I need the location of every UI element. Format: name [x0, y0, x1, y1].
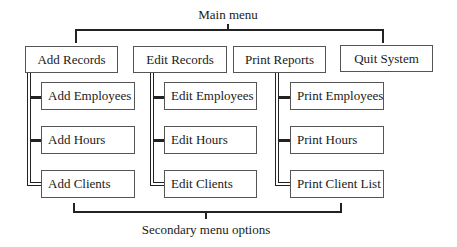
submenu-add-hours[interactable]: Add Hours	[41, 126, 135, 154]
submenu-edit-employees[interactable]: Edit Employees	[164, 82, 257, 110]
add-trunk-b	[30, 73, 31, 182]
print-corner-b	[278, 182, 290, 183]
menu-edit-records[interactable]: Edit Records	[133, 46, 227, 73]
submenu-edit-clients[interactable]: Edit Clients	[164, 170, 257, 198]
print-stub-1	[278, 96, 290, 99]
bottom-bracket-horizontal	[73, 211, 342, 213]
edit-stub-2	[153, 139, 164, 142]
top-bracket-left	[75, 29, 77, 43]
submenu-print-hours[interactable]: Print Hours	[290, 126, 384, 154]
print-trunk-b	[278, 73, 279, 182]
print-stub-2	[278, 139, 290, 142]
print-trunk-a	[275, 73, 276, 185]
add-stub-2	[30, 139, 41, 142]
submenu-add-clients[interactable]: Add Clients	[41, 170, 135, 198]
add-corner-b	[30, 182, 41, 183]
secondary-menu-label: Secondary menu options	[142, 222, 271, 238]
bottom-bracket-right	[340, 203, 342, 212]
submenu-print-client-list[interactable]: Print Client List	[290, 170, 384, 198]
bottom-bracket-left	[73, 203, 75, 212]
edit-corner-a	[150, 185, 164, 186]
edit-trunk-b	[153, 73, 154, 182]
menu-quit-system[interactable]: Quit System	[340, 45, 433, 72]
top-bracket-horizontal	[75, 29, 384, 31]
add-stub-1	[30, 96, 41, 99]
add-corner-a	[27, 185, 41, 186]
edit-trunk-a	[150, 73, 151, 185]
main-menu-label: Main menu	[198, 7, 258, 23]
edit-stub-1	[153, 96, 164, 99]
edit-corner-b	[153, 182, 164, 183]
submenu-print-employees[interactable]: Print Employees	[290, 82, 384, 110]
submenu-edit-hours[interactable]: Edit Hours	[164, 126, 257, 154]
print-corner-a	[275, 185, 290, 186]
top-bracket-tick	[227, 24, 229, 30]
top-bracket-right	[382, 29, 384, 43]
menu-add-records[interactable]: Add Records	[25, 46, 118, 73]
submenu-add-employees[interactable]: Add Employees	[41, 82, 135, 110]
add-trunk-a	[27, 73, 28, 185]
bottom-bracket-tick	[205, 212, 207, 219]
menu-print-reports[interactable]: Print Reports	[233, 46, 326, 73]
